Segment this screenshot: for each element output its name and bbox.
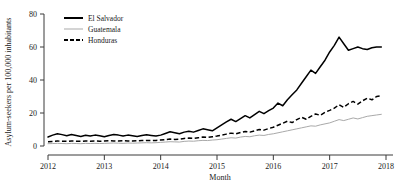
y-tick-label: 80 [29, 10, 37, 19]
legend-label-guatemala: Guatemala [88, 25, 121, 34]
chart-background [0, 0, 406, 185]
line-chart: Asylum-seekers per 100,000 inhabitants 0… [0, 0, 406, 185]
y-axis-title: Asylum-seekers per 100,000 inhabitants [4, 18, 13, 147]
x-tick-label: 2013 [96, 162, 112, 171]
x-tick-label: 2015 [209, 162, 225, 171]
legend-label-el-salvador: El Salvador [88, 14, 124, 23]
chart-figure: Asylum-seekers per 100,000 inhabitants 0… [0, 0, 406, 185]
y-tick-label: 20 [29, 109, 37, 118]
y-tick-label: 0 [33, 142, 37, 151]
x-tick-label: 2018 [378, 162, 394, 171]
x-tick-label: 2014 [153, 162, 169, 171]
x-axis-title: Month [209, 173, 230, 182]
legend-label-honduras: Honduras [88, 36, 117, 45]
y-tick-label: 60 [29, 43, 37, 52]
legend: El SalvadorGuatemalaHonduras [64, 14, 124, 45]
y-tick-label: 40 [29, 76, 37, 85]
x-tick-label: 2017 [322, 162, 338, 171]
x-tick-label: 2016 [265, 162, 281, 171]
x-tick-label: 2012 [40, 162, 56, 171]
